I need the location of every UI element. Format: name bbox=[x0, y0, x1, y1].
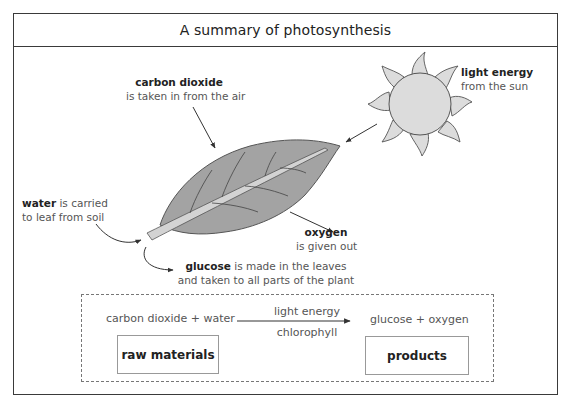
raw-materials-label: raw materials bbox=[121, 348, 214, 362]
label-water-desc: to leaf from soil bbox=[22, 211, 104, 223]
label-oxygen-desc: is given out bbox=[296, 240, 357, 252]
arrow-carbon-dioxide bbox=[193, 107, 215, 148]
products-box: products bbox=[365, 336, 469, 375]
label-carbon-dioxide-title: carbon dioxide bbox=[135, 76, 223, 88]
equation-reactants: carbon dioxide + water bbox=[106, 312, 235, 325]
label-light-energy: light energy from the sun bbox=[461, 65, 533, 93]
label-light-energy-title: light energy bbox=[461, 66, 533, 78]
label-water: water is carried to leaf from soil bbox=[22, 196, 108, 224]
label-carbon-dioxide-desc: is taken in from the air bbox=[126, 90, 245, 102]
equation-condition-light: light energy bbox=[266, 305, 348, 318]
arrow-water bbox=[96, 224, 141, 242]
label-glucose-desc: and taken to all parts of the plant bbox=[178, 274, 354, 286]
label-water-rest: is carried bbox=[56, 197, 108, 209]
label-glucose-rest: is made in the leaves bbox=[231, 260, 347, 272]
raw-materials-box: raw materials bbox=[117, 335, 219, 374]
products-label: products bbox=[387, 349, 447, 363]
label-water-title: water bbox=[22, 197, 56, 209]
equation-products: glucose + oxygen bbox=[370, 313, 469, 326]
label-glucose: glucose is made in the leaves and taken … bbox=[176, 259, 356, 287]
label-glucose-title: glucose bbox=[185, 260, 230, 272]
label-carbon-dioxide: carbon dioxide is taken in from the air bbox=[126, 75, 232, 103]
arrow-glucose bbox=[144, 247, 173, 270]
sun-icon bbox=[368, 52, 472, 156]
label-light-energy-desc: from the sun bbox=[461, 80, 528, 92]
label-oxygen: oxygen is given out bbox=[296, 225, 356, 253]
equation-condition-chlorophyll: chlorophyll bbox=[266, 326, 348, 339]
arrow-light-energy bbox=[346, 124, 377, 142]
label-oxygen-title: oxygen bbox=[305, 226, 348, 238]
